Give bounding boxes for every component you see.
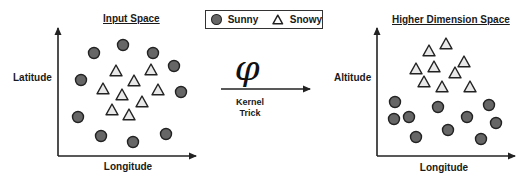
sunny-point bbox=[433, 102, 444, 113]
legend-label-snowy: Snowy bbox=[290, 14, 322, 25]
data-points bbox=[73, 38, 502, 148]
snowy-point bbox=[128, 75, 140, 86]
sunny-point bbox=[411, 132, 422, 143]
sunny-point bbox=[484, 100, 495, 111]
sunny-point bbox=[89, 48, 100, 59]
sunny-point bbox=[161, 129, 172, 140]
snowy-point bbox=[106, 104, 118, 115]
right-panel-title: Higher Dimension Space bbox=[392, 14, 510, 25]
triangle-icon bbox=[272, 14, 284, 25]
snowy-point bbox=[464, 81, 476, 92]
sunny-point bbox=[176, 87, 187, 98]
snowy-point bbox=[418, 76, 430, 87]
snowy-point bbox=[116, 89, 128, 100]
snowy-point bbox=[410, 63, 422, 74]
sunny-point bbox=[443, 125, 454, 136]
snowy-point bbox=[152, 84, 164, 95]
sunny-point bbox=[476, 134, 487, 145]
snowy-point bbox=[458, 56, 470, 67]
snowy-point bbox=[123, 109, 135, 120]
sunny-point bbox=[404, 112, 415, 123]
snowy-point bbox=[97, 83, 109, 94]
left-x-axis-label: Longitude bbox=[104, 161, 152, 172]
kernel-label: Kernel bbox=[236, 97, 264, 107]
snowy-point bbox=[449, 67, 461, 78]
sunny-point bbox=[462, 112, 473, 123]
sunny-point bbox=[169, 61, 180, 72]
circle-icon bbox=[211, 14, 222, 25]
snowy-point bbox=[423, 45, 435, 56]
snowy-point bbox=[136, 96, 148, 107]
right-y-axis-label: Altitude bbox=[334, 72, 371, 83]
phi-symbol: φ bbox=[234, 48, 259, 88]
left-panel-title: Input Space bbox=[103, 13, 160, 24]
sunny-point bbox=[491, 118, 502, 129]
sunny-point bbox=[73, 112, 84, 123]
right-x-axis-label: Longitude bbox=[420, 162, 468, 173]
sunny-point bbox=[390, 97, 401, 108]
left-y-axis-label: Latitude bbox=[13, 72, 52, 83]
sunny-point bbox=[148, 48, 159, 59]
snowy-point bbox=[110, 65, 122, 76]
sunny-point bbox=[96, 131, 107, 142]
snowy-point bbox=[145, 64, 157, 75]
snowy-point bbox=[440, 38, 452, 49]
snowy-point bbox=[428, 61, 440, 72]
legend: Sunny Snowy bbox=[205, 10, 323, 29]
sunny-point bbox=[76, 75, 87, 86]
legend-label-sunny: Sunny bbox=[228, 14, 259, 25]
trick-label: Trick bbox=[239, 108, 260, 118]
sunny-point bbox=[389, 114, 400, 125]
snowy-point bbox=[436, 81, 448, 92]
sunny-point bbox=[118, 40, 129, 51]
sunny-point bbox=[128, 137, 139, 148]
